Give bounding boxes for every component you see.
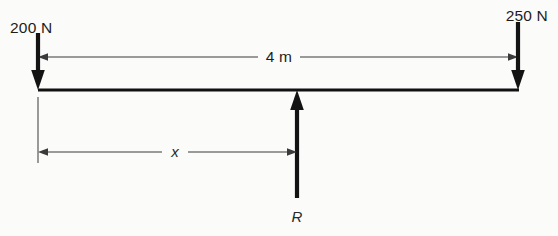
left-load-label: 200 N bbox=[10, 19, 52, 36]
diagram-canvas: 4 m 200 N 250 N R x bbox=[0, 0, 558, 236]
span-dimension-label: 4 m bbox=[266, 48, 292, 65]
span-dimension-group: 4 m bbox=[38, 48, 518, 65]
right-load-arrowhead bbox=[511, 70, 525, 90]
distance-dimension-label: x bbox=[170, 143, 179, 160]
distance-dimension-group: x bbox=[38, 143, 297, 160]
right-load-label: 250 N bbox=[506, 7, 548, 24]
distance-dimension-arrowhead-left bbox=[38, 148, 48, 156]
reaction-label: R bbox=[292, 208, 303, 225]
left-load-arrowhead bbox=[31, 70, 45, 90]
beam-diagram-figure: 4 m 200 N 250 N R x bbox=[0, 0, 558, 236]
reaction-force-group bbox=[290, 90, 304, 198]
reaction-arrowhead bbox=[290, 90, 304, 110]
left-load-force-group bbox=[31, 33, 45, 90]
